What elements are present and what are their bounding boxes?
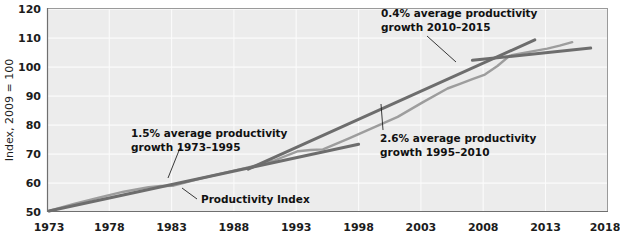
y-tick-label: 110 [18, 32, 41, 45]
y-tick-label: 120 [18, 3, 41, 16]
y-axis-ticks: 50 60 70 80 90 100 110 120 [18, 3, 41, 219]
annotation-series-label: Productivity Index [201, 193, 310, 205]
x-tick-label: 1988 [219, 221, 250, 234]
x-tick-label: 1973 [34, 221, 65, 234]
annotation-line-1: 2.6% average productivity [380, 132, 537, 144]
x-tick-label: 2008 [468, 221, 499, 234]
x-tick-label: 1998 [343, 221, 374, 234]
x-tick-label: 1983 [156, 221, 187, 234]
annotation-line-2: growth 1973–1995 [131, 141, 240, 153]
x-tick-label: 2003 [406, 221, 437, 234]
x-tick-label: 2013 [530, 221, 561, 234]
y-tick-label: 90 [26, 90, 42, 103]
y-tick-label: 50 [26, 206, 42, 219]
y-tick-label: 70 [26, 148, 42, 161]
y-axis-title: Index, 2009 = 100 [3, 59, 16, 161]
x-axis-ticks: 1973 1978 1983 1988 1993 1998 2003 2008 … [34, 221, 620, 234]
annotation-line-1: 1.5% average productivity [131, 127, 288, 139]
x-tick-label: 2018 [590, 221, 620, 234]
y-tick-label: 100 [18, 61, 41, 74]
annotation-line-2: growth 1995–2010 [380, 146, 489, 158]
annotation-line-2: growth 2010–2015 [381, 21, 490, 33]
y-tick-label: 60 [26, 177, 42, 190]
productivity-chart: 50 60 70 80 90 100 110 120 Index, 2009 =… [0, 0, 620, 241]
x-tick-label: 1993 [281, 221, 312, 234]
x-tick-label: 1978 [94, 221, 125, 234]
annotation-line-1: 0.4% average productivity [381, 7, 538, 19]
y-tick-label: 80 [26, 119, 42, 132]
